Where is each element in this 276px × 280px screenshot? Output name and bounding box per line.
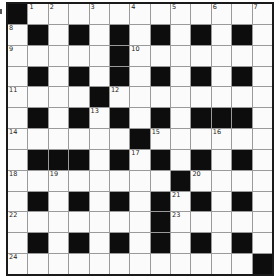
answer-cell[interactable] <box>90 212 109 232</box>
answer-cell[interactable] <box>212 25 231 45</box>
answer-cell[interactable] <box>69 87 88 107</box>
answer-cell[interactable] <box>212 67 231 87</box>
answer-cell[interactable] <box>253 233 272 253</box>
answer-cell[interactable]: 17 <box>130 150 149 170</box>
answer-cell[interactable]: 23 <box>171 212 190 232</box>
answer-cell[interactable] <box>212 192 231 212</box>
answer-cell[interactable] <box>191 129 210 149</box>
answer-cell[interactable] <box>110 129 129 149</box>
answer-cell[interactable]: 10 <box>130 46 149 66</box>
answer-cell[interactable]: 1 <box>28 4 47 24</box>
answer-cell[interactable] <box>49 46 68 66</box>
answer-cell[interactable] <box>151 87 170 107</box>
answer-cell[interactable] <box>171 108 190 128</box>
answer-cell[interactable]: 3 <box>90 4 109 24</box>
answer-cell[interactable] <box>69 46 88 66</box>
answer-cell[interactable] <box>110 254 129 274</box>
answer-cell[interactable] <box>28 171 47 191</box>
answer-cell[interactable] <box>28 212 47 232</box>
answer-cell[interactable] <box>253 171 272 191</box>
answer-cell[interactable] <box>212 212 231 232</box>
answer-cell[interactable] <box>151 4 170 24</box>
answer-cell[interactable] <box>212 46 231 66</box>
answer-cell[interactable] <box>151 171 170 191</box>
answer-cell[interactable] <box>171 129 190 149</box>
answer-cell[interactable] <box>28 87 47 107</box>
answer-cell[interactable] <box>8 192 27 212</box>
answer-cell[interactable] <box>151 254 170 274</box>
answer-cell[interactable]: 8 <box>8 25 27 45</box>
answer-cell[interactable] <box>49 25 68 45</box>
answer-cell[interactable]: 13 <box>90 108 109 128</box>
answer-cell[interactable] <box>191 212 210 232</box>
answer-cell[interactable] <box>90 150 109 170</box>
answer-cell[interactable] <box>253 192 272 212</box>
answer-cell[interactable]: 2 <box>49 4 68 24</box>
answer-cell[interactable]: 7 <box>253 4 272 24</box>
answer-cell[interactable] <box>191 46 210 66</box>
answer-cell[interactable] <box>90 46 109 66</box>
answer-cell[interactable] <box>253 46 272 66</box>
answer-cell[interactable] <box>69 171 88 191</box>
answer-cell[interactable] <box>253 67 272 87</box>
answer-cell[interactable] <box>28 46 47 66</box>
answer-cell[interactable] <box>171 67 190 87</box>
answer-cell[interactable] <box>232 254 251 274</box>
answer-cell[interactable] <box>130 254 149 274</box>
answer-cell[interactable] <box>130 233 149 253</box>
answer-cell[interactable] <box>49 233 68 253</box>
answer-cell[interactable] <box>110 171 129 191</box>
answer-cell[interactable] <box>232 212 251 232</box>
answer-cell[interactable] <box>110 4 129 24</box>
answer-cell[interactable] <box>8 67 27 87</box>
answer-cell[interactable] <box>191 254 210 274</box>
answer-cell[interactable] <box>90 233 109 253</box>
answer-cell[interactable] <box>90 25 109 45</box>
answer-cell[interactable] <box>232 46 251 66</box>
answer-cell[interactable] <box>49 212 68 232</box>
answer-cell[interactable] <box>28 254 47 274</box>
answer-cell[interactable] <box>171 87 190 107</box>
answer-cell[interactable] <box>8 150 27 170</box>
answer-cell[interactable]: 19 <box>49 171 68 191</box>
answer-cell[interactable]: 20 <box>191 171 210 191</box>
answer-cell[interactable] <box>90 171 109 191</box>
answer-cell[interactable] <box>191 4 210 24</box>
answer-cell[interactable] <box>69 129 88 149</box>
answer-cell[interactable] <box>69 4 88 24</box>
answer-cell[interactable] <box>49 67 68 87</box>
answer-cell[interactable] <box>90 129 109 149</box>
answer-cell[interactable] <box>69 254 88 274</box>
answer-cell[interactable]: 6 <box>212 4 231 24</box>
answer-cell[interactable] <box>49 108 68 128</box>
answer-cell[interactable] <box>49 87 68 107</box>
answer-cell[interactable] <box>151 46 170 66</box>
answer-cell[interactable] <box>130 87 149 107</box>
answer-cell[interactable] <box>130 25 149 45</box>
answer-cell[interactable]: 5 <box>171 4 190 24</box>
answer-cell[interactable] <box>253 129 272 149</box>
answer-cell[interactable] <box>232 4 251 24</box>
answer-cell[interactable] <box>191 87 210 107</box>
answer-cell[interactable]: 12 <box>110 87 129 107</box>
answer-cell[interactable] <box>171 233 190 253</box>
answer-cell[interactable] <box>212 171 231 191</box>
answer-cell[interactable] <box>8 108 27 128</box>
answer-cell[interactable]: 9 <box>8 46 27 66</box>
answer-cell[interactable]: 18 <box>8 171 27 191</box>
answer-cell[interactable] <box>232 171 251 191</box>
answer-cell[interactable]: 11 <box>8 87 27 107</box>
answer-cell[interactable]: 15 <box>151 129 170 149</box>
answer-cell[interactable] <box>171 25 190 45</box>
answer-cell[interactable] <box>8 233 27 253</box>
answer-cell[interactable] <box>130 108 149 128</box>
answer-cell[interactable] <box>130 67 149 87</box>
answer-cell[interactable] <box>28 129 47 149</box>
answer-cell[interactable] <box>253 87 272 107</box>
answer-cell[interactable] <box>232 129 251 149</box>
answer-cell[interactable] <box>253 150 272 170</box>
answer-cell[interactable]: 16 <box>212 129 231 149</box>
answer-cell[interactable] <box>49 192 68 212</box>
answer-cell[interactable] <box>171 46 190 66</box>
answer-cell[interactable] <box>130 212 149 232</box>
